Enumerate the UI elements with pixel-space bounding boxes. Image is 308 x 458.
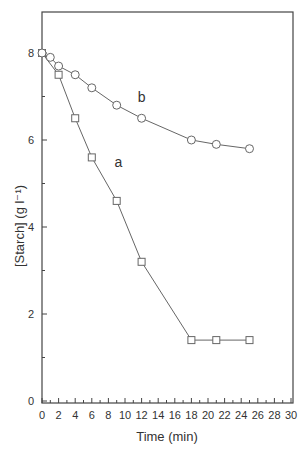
x-tick-label: 14 bbox=[152, 409, 164, 421]
x-tick-label: 2 bbox=[56, 409, 62, 421]
series-layer: ab bbox=[38, 49, 254, 344]
square-marker bbox=[188, 337, 195, 344]
x-axis-title: Time (min) bbox=[136, 429, 198, 444]
series-line bbox=[42, 53, 250, 340]
y-tick-label: 0 bbox=[28, 395, 34, 407]
series-b: b bbox=[38, 49, 254, 153]
square-marker bbox=[246, 337, 253, 344]
x-tick-label: 4 bbox=[72, 409, 78, 421]
x-tick-label: 26 bbox=[252, 409, 264, 421]
x-axis: 024681012141618202224262830 bbox=[39, 398, 297, 421]
x-tick-label: 22 bbox=[218, 409, 230, 421]
circle-marker bbox=[187, 136, 195, 144]
series-line bbox=[42, 53, 250, 149]
plot-border bbox=[42, 12, 293, 403]
circle-marker bbox=[38, 49, 46, 57]
circle-marker bbox=[88, 84, 96, 92]
circle-marker bbox=[46, 53, 54, 61]
x-tick-label: 18 bbox=[185, 409, 197, 421]
x-tick-label: 8 bbox=[105, 409, 111, 421]
square-marker bbox=[88, 154, 95, 161]
x-tick-label: 20 bbox=[202, 409, 214, 421]
circle-marker bbox=[113, 101, 121, 109]
starch-concentration-chart: 024681012141618202224262830 02468 ab Tim… bbox=[0, 0, 308, 458]
y-axis: 02468 bbox=[28, 47, 47, 407]
circle-marker bbox=[138, 114, 146, 122]
x-tick-label: 6 bbox=[89, 409, 95, 421]
series-a: a bbox=[39, 50, 254, 344]
y-tick-label: 4 bbox=[28, 221, 34, 233]
x-tick-label: 10 bbox=[119, 409, 131, 421]
circle-marker bbox=[246, 145, 254, 153]
square-marker bbox=[213, 337, 220, 344]
x-tick-label: 16 bbox=[169, 409, 181, 421]
series-label-a: a bbox=[114, 154, 122, 170]
x-tick-label: 30 bbox=[285, 409, 297, 421]
x-tick-label: 24 bbox=[235, 409, 247, 421]
x-tick-label: 12 bbox=[135, 409, 147, 421]
square-marker bbox=[55, 71, 62, 78]
x-tick-label: 28 bbox=[268, 409, 280, 421]
series-label-b: b bbox=[138, 89, 146, 105]
square-marker bbox=[113, 197, 120, 204]
circle-marker bbox=[212, 140, 220, 148]
square-marker bbox=[138, 258, 145, 265]
plot-frame bbox=[42, 12, 293, 403]
square-marker bbox=[72, 115, 79, 122]
y-axis-title: [Starch] (g l⁻¹) bbox=[12, 185, 27, 267]
y-tick-label: 6 bbox=[28, 134, 34, 146]
circle-marker bbox=[71, 71, 79, 79]
x-tick-label: 0 bbox=[39, 409, 45, 421]
y-tick-label: 2 bbox=[28, 308, 34, 320]
y-tick-label: 8 bbox=[28, 47, 34, 59]
circle-marker bbox=[55, 62, 63, 70]
